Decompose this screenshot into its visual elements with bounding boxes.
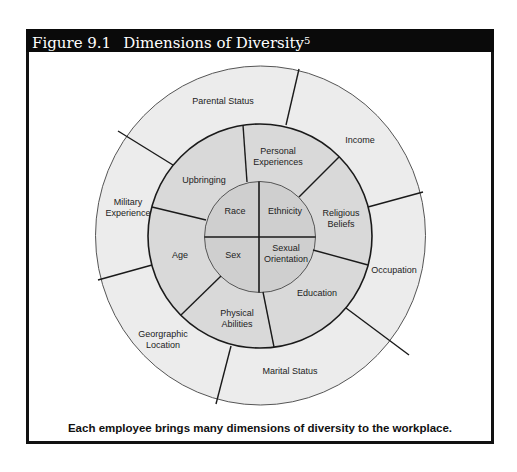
label-military-experience-line2: Experience bbox=[105, 208, 150, 218]
label-marital-status: Marital Status bbox=[262, 366, 318, 376]
label-physical-abilities-line2: Abilities bbox=[221, 319, 253, 329]
label-ethnicity: Ethnicity bbox=[268, 206, 303, 216]
label-military-experience-line1: Military bbox=[114, 197, 143, 207]
label-parental-status: Parental Status bbox=[192, 96, 254, 106]
label-sex: Sex bbox=[225, 250, 241, 260]
label-geographic-location-line1: Georgraphic bbox=[138, 329, 188, 339]
label-personal-experiences-line1: Personal bbox=[260, 146, 296, 156]
label-geographic-location-line2: Location bbox=[146, 340, 180, 350]
label-education: Education bbox=[297, 288, 337, 298]
label-religious-beliefs-line2: Beliefs bbox=[327, 219, 355, 229]
label-religious-beliefs-line1: Religious bbox=[322, 208, 360, 218]
label-upbringing: Upbringing bbox=[182, 175, 226, 185]
label-age: Age bbox=[172, 250, 188, 260]
label-sexual-orientation-line2: Orientation bbox=[264, 254, 308, 264]
label-personal-experiences-line2: Experiences bbox=[253, 157, 303, 167]
diversity-wheel: Race Ethnicity Sex Sexual Orientation Up… bbox=[0, 0, 517, 472]
label-sexual-orientation-line1: Sexual bbox=[272, 243, 300, 253]
label-income: Income bbox=[345, 135, 375, 145]
label-occupation: Occupation bbox=[371, 265, 417, 275]
label-race: Race bbox=[224, 206, 245, 216]
label-physical-abilities-line1: Physical bbox=[220, 308, 254, 318]
figure-caption: Each employee brings many dimensions of … bbox=[26, 422, 494, 434]
